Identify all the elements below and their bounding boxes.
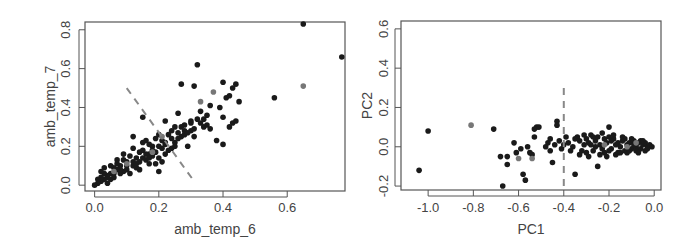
data-point [140, 155, 146, 161]
x-tick-label: -0.2 [598, 200, 620, 215]
data-point [606, 148, 612, 154]
data-point [300, 21, 306, 27]
data-point [191, 134, 197, 140]
y-tick-label: 0.6 [376, 20, 391, 38]
data-point-highlight [633, 140, 639, 146]
data-point [606, 134, 612, 140]
data-point [169, 136, 175, 142]
data-point [140, 140, 146, 146]
data-point [146, 161, 152, 167]
data-point [547, 148, 553, 154]
data-point [118, 167, 124, 173]
scatter-panel-amb-temp: 0.00.20.40.60.00.20.40.60.8amb_temp_6amb… [42, 21, 345, 237]
data-point [127, 171, 133, 177]
data-point [606, 124, 612, 130]
data-point [584, 150, 590, 156]
x-tick-label: -0.6 [507, 200, 529, 215]
data-point [175, 110, 181, 116]
data-point [156, 144, 162, 150]
data-point [207, 126, 213, 132]
data-point [153, 161, 159, 167]
scatter-plots-figure: 0.00.20.40.60.00.20.40.60.8amb_temp_6amb… [0, 0, 698, 252]
data-point [593, 144, 599, 150]
data-point [613, 142, 619, 148]
data-point-highlight [516, 156, 522, 162]
data-point [236, 99, 242, 105]
data-point [223, 95, 229, 101]
data-point [185, 144, 191, 150]
x-tick-label: -1.0 [417, 200, 439, 215]
data-point-highlight [211, 89, 217, 95]
data-point [169, 128, 175, 134]
data-point [101, 165, 107, 171]
x-tick-label: -0.8 [462, 200, 484, 215]
data-point [597, 152, 603, 158]
data-point [568, 148, 574, 154]
data-point-highlight [150, 149, 156, 155]
data-point [217, 105, 223, 111]
x-tick-label: 0.0 [86, 200, 104, 215]
data-point [640, 138, 646, 144]
data-point [166, 147, 172, 153]
data-point [207, 103, 213, 109]
data-point-highlight [198, 99, 204, 105]
data-point [233, 118, 239, 124]
data-point [156, 169, 162, 175]
y-tick-label: 0.8 [58, 21, 73, 39]
plot-frame [401, 21, 661, 190]
data-point [618, 150, 624, 156]
data-point-highlight [602, 142, 608, 148]
data-point [188, 118, 194, 124]
data-point-highlight [624, 144, 630, 150]
data-point [220, 79, 226, 85]
data-point [220, 114, 226, 120]
data-point [550, 160, 556, 166]
data-point [95, 177, 101, 183]
data-point [191, 83, 197, 89]
data-point [127, 153, 133, 159]
data-point [581, 132, 587, 138]
data-point [137, 167, 143, 173]
data-point [130, 145, 136, 151]
data-point [178, 124, 184, 130]
y-tick-label: -0.2 [376, 175, 391, 197]
data-point [121, 151, 127, 157]
data-point [645, 146, 651, 152]
x-axis-label: amb_temp_6 [174, 221, 256, 237]
x-tick-label: 0.4 [214, 200, 232, 215]
data-point [140, 114, 146, 120]
data-point [498, 154, 504, 160]
data-point [629, 136, 635, 142]
data-point [500, 183, 506, 189]
data-point [162, 118, 168, 124]
x-axis-label: PC1 [517, 221, 544, 237]
data-point [586, 140, 592, 146]
data-point-highlight [529, 156, 535, 162]
data-point [563, 134, 569, 140]
data-point [416, 168, 422, 174]
data-point [227, 124, 233, 130]
y-axis-label: PC2 [359, 92, 375, 119]
y-tick-label: 0.2 [376, 98, 391, 116]
x-tick-label: 0.2 [150, 200, 168, 215]
data-point [636, 150, 642, 156]
data-point [195, 62, 201, 68]
data-point [114, 157, 120, 163]
data-point [146, 155, 152, 161]
data-point [339, 54, 345, 60]
data-point-highlight [300, 83, 306, 89]
data-point [511, 140, 517, 146]
y-axis-label: amb_temp_7 [42, 65, 58, 147]
data-point [552, 142, 558, 148]
scatter-panel-pca: -1.0-0.8-0.6-0.4-0.20.0-0.20.00.20.40.6P… [359, 20, 663, 237]
x-tick-label: 0.6 [278, 200, 296, 215]
y-tick-label: 0.2 [58, 137, 73, 155]
data-point [504, 162, 510, 168]
data-point [520, 171, 526, 177]
data-point [536, 124, 542, 130]
y-tick-label: 0.4 [58, 98, 73, 116]
x-tick-label: 0.0 [645, 200, 663, 215]
data-point [604, 154, 610, 160]
y-tick-label: 0.0 [376, 138, 391, 156]
data-point [595, 164, 601, 170]
